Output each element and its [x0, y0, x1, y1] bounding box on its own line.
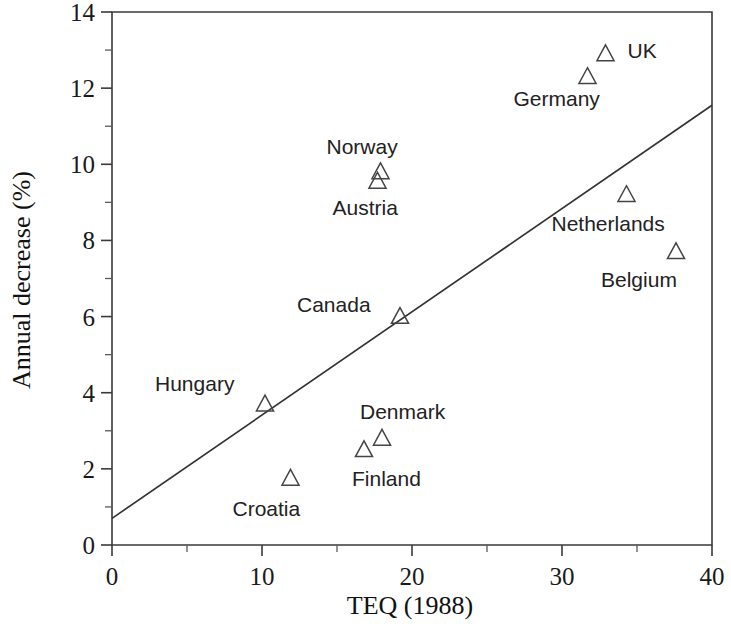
y-tick-label: 6	[83, 304, 96, 331]
data-point-label: Canada	[297, 293, 371, 316]
x-tick-label: 10	[250, 563, 275, 590]
data-point-label: Belgium	[601, 268, 677, 291]
data-point-label: Denmark	[360, 400, 446, 423]
data-point-marker	[373, 429, 390, 445]
y-tick-label: 8	[83, 227, 96, 254]
data-point-marker	[597, 45, 614, 61]
data-point-marker	[618, 186, 635, 202]
data-point-label: UK	[628, 39, 657, 62]
y-axis-title: Annual decrease (%)	[7, 171, 36, 389]
data-point-label: Hungary	[155, 372, 235, 395]
data-point-label: Croatia	[233, 497, 301, 520]
data-point-label: Netherlands	[552, 212, 665, 235]
data-point-label: Norway	[327, 135, 399, 158]
x-tick-label: 30	[550, 563, 575, 590]
y-tick-label: 10	[70, 151, 95, 178]
x-tick-label: 40	[700, 563, 725, 590]
point-labels-group: UKGermanyNorwayAustriaNetherlandsBelgium…	[155, 39, 677, 520]
data-point-marker	[355, 441, 372, 457]
data-point-marker	[667, 243, 684, 259]
data-point-marker	[369, 172, 386, 188]
y-tick-label: 14	[70, 0, 96, 26]
data-point-label: Austria	[333, 196, 399, 219]
regression-line	[112, 105, 712, 518]
x-axis-title: TEQ (1988)	[347, 591, 473, 620]
x-tick-label: 0	[106, 563, 119, 590]
data-point-marker	[579, 68, 596, 84]
data-point-marker	[372, 163, 389, 179]
data-point-label: Germany	[514, 87, 601, 110]
tick-labels-group: 02468101214010203040	[70, 0, 725, 590]
data-markers-group	[256, 45, 684, 485]
plot-area: 02468101214010203040 UKGermanyNorwayAust…	[0, 0, 731, 632]
x-tick-label: 20	[400, 563, 425, 590]
trend-line-group	[112, 105, 712, 518]
data-point-marker	[282, 469, 299, 485]
scatter-chart: 02468101214010203040 UKGermanyNorwayAust…	[0, 0, 731, 632]
y-tick-label: 2	[83, 456, 96, 483]
y-tick-label: 4	[83, 380, 96, 407]
data-point-label: Finland	[352, 467, 421, 490]
y-tick-label: 12	[70, 75, 95, 102]
y-tick-label: 0	[83, 532, 96, 559]
axis-titles-group: TEQ (1988) Annual decrease (%)	[7, 171, 473, 620]
